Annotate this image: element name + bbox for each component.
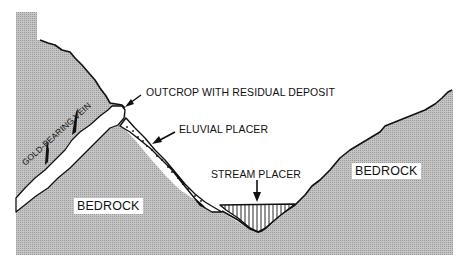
stream-label: STREAM PLACER xyxy=(211,168,301,180)
outcrop-label: OUTCROP WITH RESIDUAL DEPOSIT xyxy=(146,86,335,98)
outcrop-arrow xyxy=(125,95,141,107)
eluvial-label: ELUVIAL PLACER xyxy=(179,123,268,135)
bedrock-left-label: BEDROCK xyxy=(74,198,143,214)
stream-arrow xyxy=(253,180,261,202)
eluvial-arrow xyxy=(152,132,175,144)
bedrock-right-label: BEDROCK xyxy=(352,163,421,179)
cross-section-diagram xyxy=(0,0,470,270)
